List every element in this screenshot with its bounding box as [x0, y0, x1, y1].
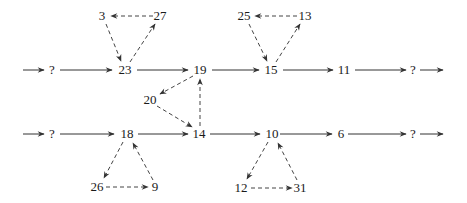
node-label: ? [49, 126, 55, 141]
node-label: 10 [266, 126, 279, 141]
cycle-3-23-27 [106, 16, 155, 62]
node-label: 14 [193, 126, 207, 141]
node-label: 12 [235, 180, 248, 195]
node-label: 11 [338, 62, 351, 77]
node-label: 19 [194, 62, 207, 77]
node-label: 13 [299, 8, 312, 23]
node-labels: ? 23 19 15 11 ? 3 27 25 13 20 ? 18 14 10… [49, 8, 416, 195]
node-label: 25 [238, 8, 251, 23]
node-label: 15 [265, 62, 278, 77]
node-label: ? [410, 126, 416, 141]
node-label: 20 [144, 92, 157, 107]
cycle-25-15-13 [249, 16, 300, 62]
node-label: ? [49, 62, 55, 77]
node-label: 26 [91, 179, 105, 194]
node-label: 18 [121, 126, 134, 141]
cycle-19-20-14 [157, 76, 200, 127]
node-label: 27 [154, 8, 168, 23]
node-label: 9 [152, 179, 159, 194]
node-label: 31 [294, 180, 307, 195]
cycle-10-12-31 [247, 142, 297, 188]
node-label: 6 [338, 126, 345, 141]
node-label: 3 [99, 8, 106, 23]
cycle-18-26-9 [104, 142, 153, 187]
node-label: 23 [119, 62, 132, 77]
node-label: ? [410, 62, 416, 77]
cycle-diagram: ? 23 19 15 11 ? 3 27 25 13 20 ? 18 14 10… [0, 0, 467, 203]
